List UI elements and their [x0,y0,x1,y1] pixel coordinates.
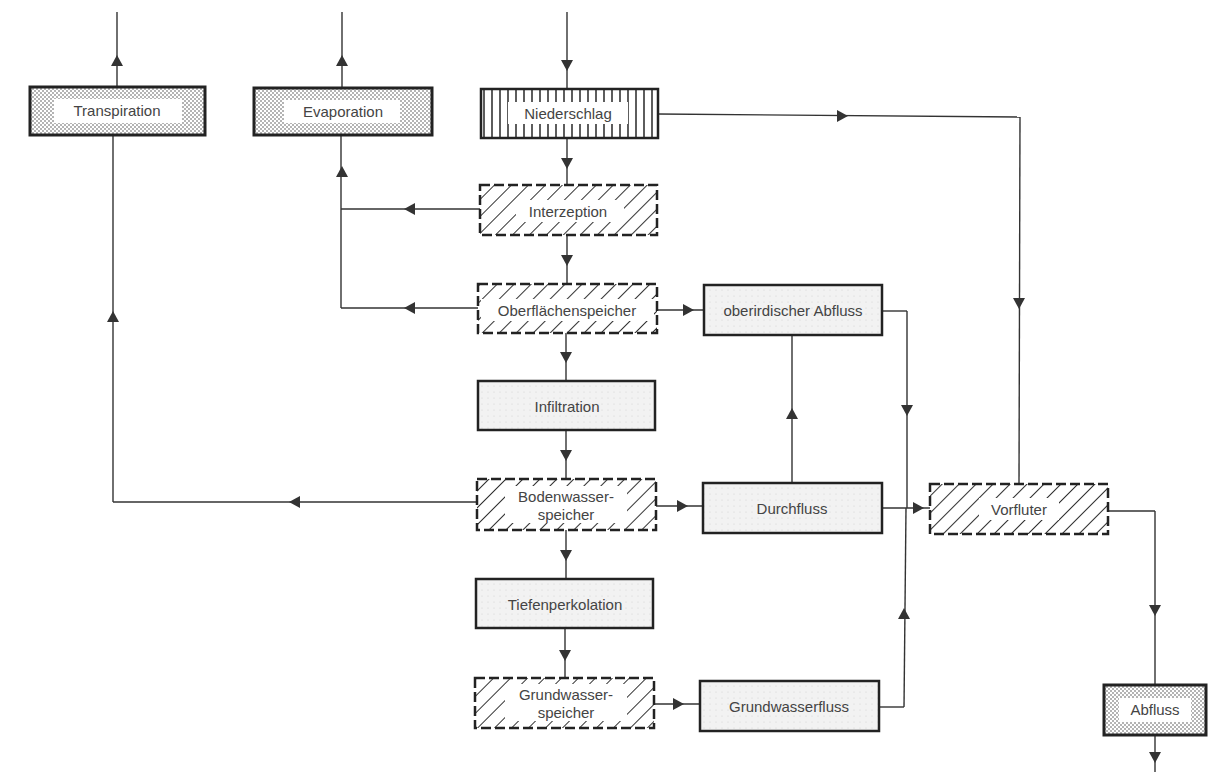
node-grundwasserspeicher: Grundwasser- speicher [475,678,654,728]
node-interzeption: Interzeption [480,185,657,235]
arrow-right-icon [913,502,924,514]
label-vorfluter: Vorfluter [991,501,1047,518]
label-niederschlag: Niederschlag [524,105,612,122]
node-evaporation: Evaporation [254,88,432,135]
arrow-up-icon [336,166,348,177]
arrow-right-icon [837,110,848,122]
label-transpiration: Transpiration [74,102,161,119]
arrow-right-icon [673,698,684,710]
arrow-down-icon [1149,752,1161,763]
label-oberflaechenspeicher: Oberflächenspeicher [498,302,636,319]
node-oberflaechenspeicher: Oberflächenspeicher [478,284,657,333]
node-tiefenperkolation: Tiefenperkolation [476,579,653,628]
node-transpiration: Transpiration [30,87,205,135]
arrow-up-icon [786,408,798,419]
node-oberirdischer-abfluss: oberirdischer Abfluss [704,285,882,335]
arrow-down-icon [559,650,571,661]
node-durchfluss: Durchfluss [703,483,882,533]
node-infiltration: Infiltration [478,381,655,430]
water-cycle-diagram: Transpiration Evaporation Niederschlag I… [0,0,1227,783]
label-grundwasserfluss: Grundwasserfluss [729,698,849,715]
arrow-down-icon [561,158,573,169]
label-bodenwasserspeicher-line2: speicher [538,506,595,523]
arrow-down-icon [901,405,913,416]
node-bodenwasserspeicher: Bodenwasser- speicher [477,479,656,530]
arrow-right-icon [683,304,694,316]
arrow-down-icon [561,60,573,71]
arrow-up-icon [898,608,910,619]
label-oberirdischer-abfluss: oberirdischer Abfluss [723,302,862,319]
arrow-down-icon [560,352,572,363]
label-grundwasserspeicher-line1: Grundwasser- [519,686,613,703]
arrow-left-icon [289,496,300,508]
node-niederschlag: Niederschlag [481,89,658,138]
label-evaporation: Evaporation [303,103,383,120]
arrow-up-icon [111,55,123,66]
arrow-left-icon [404,302,415,314]
node-abfluss: Abfluss [1104,685,1206,735]
label-infiltration: Infiltration [534,398,599,415]
label-tiefenperkolation: Tiefenperkolation [508,596,623,613]
arrow-down-icon [1149,605,1161,616]
node-vorfluter: Vorfluter [930,484,1108,534]
arrow-up-icon [336,55,348,66]
label-abfluss: Abfluss [1130,701,1179,718]
arrow-down-icon [1013,298,1025,309]
arrow-up-icon [107,311,119,322]
label-durchfluss: Durchfluss [757,500,828,517]
label-grundwasserspeicher-line2: speicher [538,704,595,721]
label-interzeption: Interzeption [529,203,607,220]
arrow-down-icon [560,550,572,561]
arrow-down-icon [561,255,573,266]
arrow-right-icon [677,500,688,512]
node-grundwasserfluss: Grundwasserfluss [700,681,879,731]
arrow-down-icon [560,450,572,461]
arrow-left-icon [404,203,415,215]
label-bodenwasserspeicher-line1: Bodenwasser- [518,488,614,505]
